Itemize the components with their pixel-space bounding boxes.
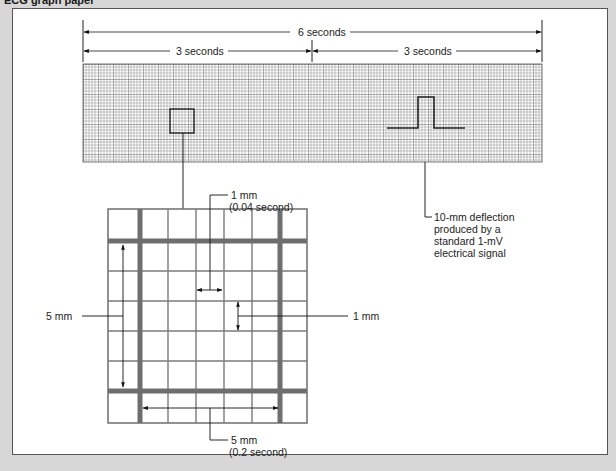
one-mm-width-label: 1 mm xyxy=(231,189,257,201)
ecg-paper-diagram xyxy=(0,0,616,471)
calibration-label-line4: electrical signal xyxy=(434,247,506,259)
five-mm-height-label: 5 mm xyxy=(46,310,72,322)
one-mm-width-seconds-label: (0.04 second) xyxy=(229,201,293,213)
five-mm-width-seconds-label: (0.2 second) xyxy=(229,446,287,458)
calibration-leader-line xyxy=(425,162,432,217)
six-seconds-label: 6 seconds xyxy=(294,26,350,38)
calibration-label-line3: standard 1-mV xyxy=(434,235,503,247)
calibration-label-line2: produced by a xyxy=(434,223,501,235)
one-mm-height-label: 1 mm xyxy=(353,310,379,322)
five-mm-width-label: 5 mm xyxy=(231,434,257,446)
ecg-strip xyxy=(83,64,542,162)
three-seconds-right-label: 3 seconds xyxy=(400,45,456,57)
enlarged-grid xyxy=(82,195,348,440)
calibration-label-line1: 10-mm deflection xyxy=(434,211,515,223)
three-seconds-left-label: 3 seconds xyxy=(172,45,228,57)
